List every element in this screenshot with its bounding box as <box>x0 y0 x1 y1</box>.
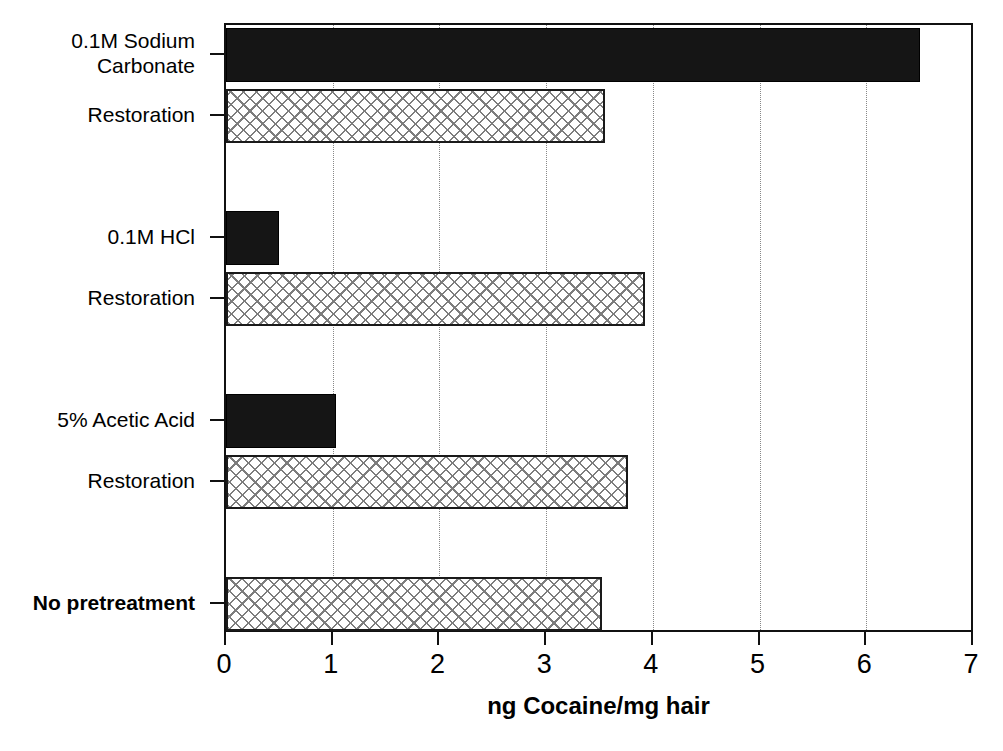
gridline-6 <box>866 25 867 630</box>
x-axis-title: ng Cocaine/mg hair <box>224 692 973 720</box>
category-label-0: 0.1M Sodium Carbonate <box>0 28 205 78</box>
x-tick-label-0: 0 <box>194 649 254 680</box>
x-tick-label-3: 3 <box>514 649 574 680</box>
plot-area <box>224 23 973 632</box>
x-tick-6 <box>864 632 866 645</box>
y-tick-3 <box>210 236 224 238</box>
x-tick-1 <box>331 632 333 645</box>
x-tick-label-5: 5 <box>728 649 788 680</box>
category-label-4: Restoration <box>0 285 205 310</box>
x-tick-5 <box>758 632 760 645</box>
y-tick-1 <box>210 114 224 116</box>
y-tick-0 <box>210 53 224 55</box>
bar-0 <box>226 28 920 82</box>
x-tick-label-6: 6 <box>834 649 894 680</box>
x-tick-label-1: 1 <box>301 649 361 680</box>
gridline-5 <box>760 25 761 630</box>
x-tick-label-2: 2 <box>407 649 467 680</box>
x-tick-label-7: 7 <box>941 649 1001 680</box>
bar-9 <box>226 577 602 631</box>
category-label-7: Restoration <box>0 467 205 492</box>
y-tick-4 <box>210 297 224 299</box>
bar-7 <box>226 455 628 509</box>
category-label-1: Restoration <box>0 102 205 127</box>
x-tick-7 <box>971 632 973 645</box>
y-tick-6 <box>210 419 224 421</box>
bar-3 <box>226 211 279 265</box>
gridline-4 <box>653 25 654 630</box>
category-label-3: 0.1M HCl <box>0 224 205 249</box>
x-tick-label-4: 4 <box>621 649 681 680</box>
bar-chart: 0.1M Sodium CarbonateRestoration0.1M HCl… <box>0 0 1003 751</box>
y-tick-7 <box>210 480 224 482</box>
bar-6 <box>226 394 336 448</box>
x-tick-3 <box>544 632 546 645</box>
x-tick-4 <box>651 632 653 645</box>
y-tick-9 <box>210 602 224 604</box>
x-tick-2 <box>437 632 439 645</box>
bar-1 <box>226 89 605 143</box>
bar-4 <box>226 272 645 326</box>
category-label-9: No pretreatment <box>0 589 205 614</box>
x-tick-0 <box>224 632 226 645</box>
category-label-6: 5% Acetic Acid <box>0 406 205 431</box>
